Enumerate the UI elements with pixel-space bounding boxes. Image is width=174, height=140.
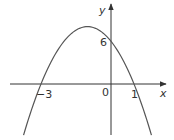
y-intercept-label: 6 [100,36,107,49]
parabola-curve [24,27,152,135]
x-intercept-left-label: −3 [36,88,52,101]
x-axis-label: x [159,87,167,100]
parabola-graph: y x 6 0 −3 1 [0,0,174,140]
y-axis-label: y [98,4,106,17]
origin-label: 0 [102,86,109,99]
x-intercept-right-label: 1 [131,88,138,101]
